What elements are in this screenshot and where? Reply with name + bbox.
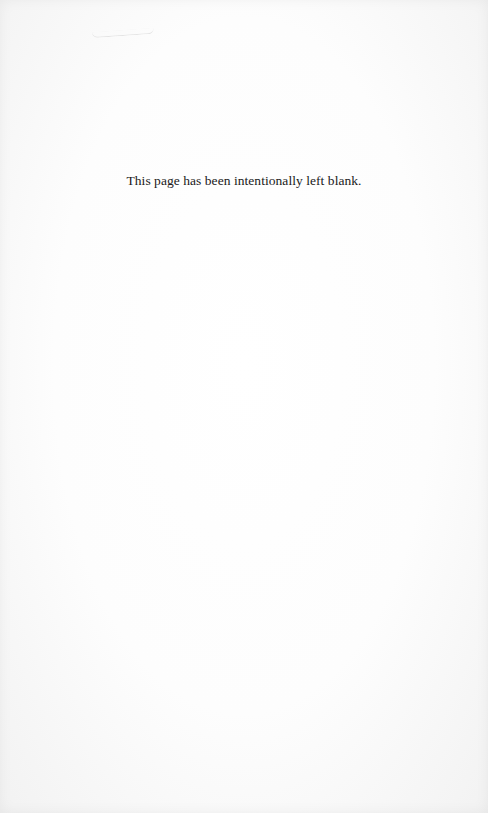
intentionally-blank-notice: This page has been intentionally left bl… [0,172,488,190]
blank-page: This page has been intentionally left bl… [0,0,488,813]
scan-artifact-mark [92,28,154,38]
